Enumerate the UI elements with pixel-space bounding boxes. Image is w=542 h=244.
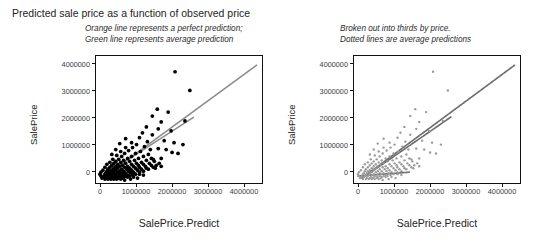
y-tick-label-3000000-right: 3000000 — [302, 87, 348, 96]
scatter-points-right — [357, 71, 449, 182]
y-axis-label-left: SalePrice — [28, 104, 39, 145]
y-tick-label-0-left: 0 — [44, 168, 90, 177]
y-tick-label-2000000-left: 2000000 — [44, 114, 90, 123]
chart-panel-right: Broken out into thirds by price. Dotted … — [271, 0, 542, 244]
scatter-plot-left[interactable] — [95, 55, 263, 184]
scatter-plot-left-canvas — [96, 56, 262, 183]
chart-subtitle-right: Broken out into thirds by price. Dotted … — [340, 24, 471, 45]
y-axis-label-right: SalePrice — [286, 104, 297, 145]
x-axis-label-right: SalePrice.Predict — [353, 217, 521, 229]
scatter-plot-right[interactable] — [353, 55, 521, 184]
y-tick-label-4000000-left: 4000000 — [44, 60, 90, 69]
x-tick-label-4000000-left: 4000000 — [221, 187, 267, 196]
x-tick-label-4000000-right: 4000000 — [479, 187, 525, 196]
average-prediction-line-middle-third-right — [364, 117, 451, 177]
chart-panel-left: Orange line represents a perfect predict… — [0, 0, 271, 244]
chart-subtitle-left-line1: Orange line represents a perfect predict… — [85, 24, 242, 35]
y-tick-label-0-right: 0 — [302, 168, 348, 177]
scatter-points-left — [98, 70, 192, 182]
chart-subtitle-left-line2: Green line represents average prediction — [85, 35, 242, 46]
scatter-plot-right-canvas — [354, 56, 520, 183]
chart-subtitle-left: Orange line represents a perfect predict… — [85, 24, 242, 45]
y-tick-label-1000000-left: 1000000 — [44, 141, 90, 150]
chart-subtitle-right-line1: Broken out into thirds by price. — [340, 24, 471, 35]
x-axis-label-left: SalePrice.Predict — [95, 217, 263, 229]
y-tick-label-3000000-left: 3000000 — [44, 87, 90, 96]
average-prediction-line-upper-third-right — [362, 65, 515, 178]
y-tick-label-4000000-right: 4000000 — [302, 60, 348, 69]
chart-subtitle-right-line2: Dotted lines are average predictions — [340, 35, 471, 46]
y-tick-label-1000000-right: 1000000 — [302, 141, 348, 150]
y-tick-label-2000000-right: 2000000 — [302, 114, 348, 123]
